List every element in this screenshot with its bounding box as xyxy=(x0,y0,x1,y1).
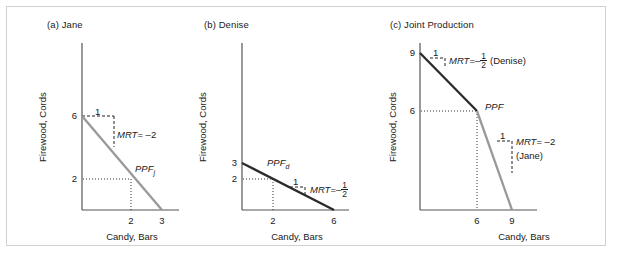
mrt-fraction-denise: 12 xyxy=(341,181,348,199)
plot-denise xyxy=(197,7,397,247)
curve-label-joint: PPF xyxy=(485,101,503,112)
ppf-line-joint-jane xyxy=(477,111,512,210)
panel-jane: (a) Jane Firewood, Cords 6 2 2 3 1 MRT= … xyxy=(7,7,207,247)
mrt-text-joint-denise: MRT xyxy=(449,55,469,66)
mrt-text-jane: MRT xyxy=(117,129,137,140)
mrt-label-denise: MRT=–12 xyxy=(310,181,348,199)
x-tick-denise-2: 2 xyxy=(266,215,280,226)
y-tick-joint-9: 9 xyxy=(401,47,415,58)
panel-joint: (c) Joint Production Firewood, Cords 9 6… xyxy=(387,7,607,247)
x-tick-joint-9: 9 xyxy=(505,215,519,226)
mrt-label-jane: MRT= –2 xyxy=(117,129,156,140)
mrt-denominator-joint-denise: 2 xyxy=(480,60,487,70)
curve-label-jane: PPFj xyxy=(135,163,155,176)
mrt-text-joint-jane: MRT xyxy=(516,136,536,147)
mrt-who-joint-denise: (Denise) xyxy=(490,55,526,66)
mrt-value-jane: = –2 xyxy=(137,129,156,140)
x-axis-label-jane: Candy, Bars xyxy=(77,231,187,242)
figure-frame: (a) Jane Firewood, Cords 6 2 2 3 1 MRT= … xyxy=(6,6,606,246)
ppf-text-denise: PPF xyxy=(267,157,285,168)
slope-rise-label-denise: 1 xyxy=(293,176,298,187)
curve-label-denise: PPFd xyxy=(267,157,289,170)
mrt-value-joint-jane: = –2 xyxy=(536,136,555,147)
ppf-subscript-jane: j xyxy=(153,169,155,176)
mrt-label-joint-jane: MRT= –2 xyxy=(516,136,555,147)
x-tick-joint-6: 6 xyxy=(470,215,484,226)
mrt-text-denise: MRT xyxy=(310,184,330,195)
x-tick-jane-2: 2 xyxy=(124,215,138,226)
y-tick-denise-3: 3 xyxy=(223,157,237,168)
plot-jane xyxy=(7,7,207,247)
ppf-text-jane: PPF xyxy=(135,163,153,174)
x-axis-label-joint: Candy, Bars xyxy=(469,231,579,242)
slope-rise-label-joint-denise: 1 xyxy=(433,47,438,58)
mrt-denominator-denise: 2 xyxy=(341,189,348,199)
mrt-who-joint-jane: (Jane) xyxy=(516,150,543,161)
ppf-subscript-denise: d xyxy=(285,163,289,170)
mrt-label-joint-denise: MRT=–12(Denise) xyxy=(449,52,526,70)
mrt-numerator-denise: 1 xyxy=(341,181,348,190)
x-tick-denise-6: 6 xyxy=(327,215,341,226)
mrt-fraction-joint-denise: 12 xyxy=(480,52,487,70)
slope-rise-label-joint-jane: 1 xyxy=(500,130,505,141)
x-axis-label-denise: Candy, Bars xyxy=(242,231,352,242)
y-tick-joint-6: 6 xyxy=(401,105,415,116)
mrt-numerator-joint-denise: 1 xyxy=(480,52,487,61)
y-tick-denise-2: 2 xyxy=(223,173,237,184)
y-tick-jane-2: 2 xyxy=(63,173,77,184)
slope-rise-label-jane: 1 xyxy=(95,106,100,117)
x-tick-jane-3: 3 xyxy=(155,215,169,226)
panel-denise: (b) Denise Firewood, Cords 3 2 2 6 PPFd … xyxy=(197,7,397,247)
y-tick-jane-6: 6 xyxy=(63,110,77,121)
plot-joint xyxy=(387,7,607,247)
